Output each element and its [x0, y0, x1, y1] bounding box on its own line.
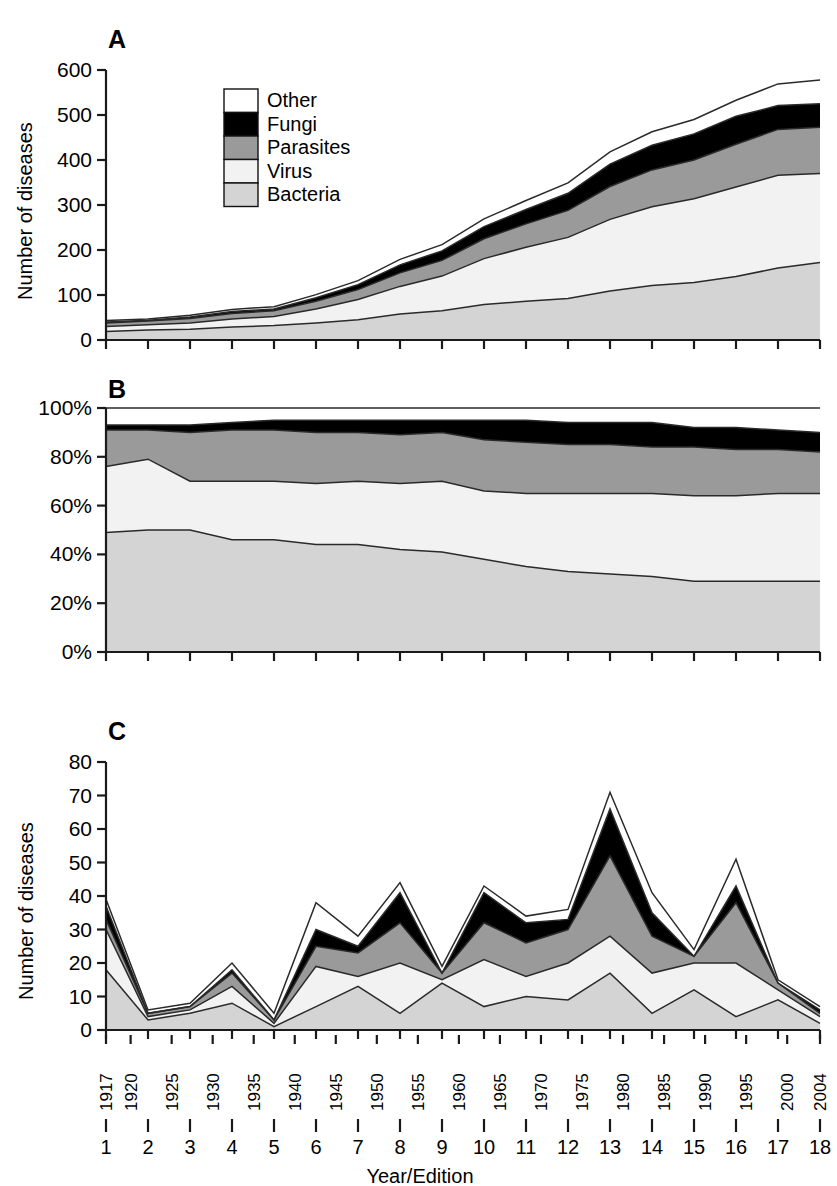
year-label: 2004: [811, 1073, 830, 1111]
edition-label: 12: [557, 1136, 579, 1158]
legend-label-other: Other: [267, 89, 317, 111]
y-tick-label: 300: [57, 193, 92, 216]
y-tick-label: 10: [69, 985, 92, 1008]
year-label: 1960: [450, 1073, 469, 1111]
legend-swatch-other: [224, 89, 258, 113]
year-label: 1980: [614, 1073, 633, 1111]
edition-label: 9: [436, 1136, 447, 1158]
panel-b-letter: B: [108, 375, 126, 403]
edition-label: 15: [683, 1136, 705, 1158]
edition-label: 13: [599, 1136, 621, 1158]
panel-c-areas: [106, 792, 820, 1030]
edition-label: 18: [809, 1136, 831, 1158]
x-axis-edition-labels: 123456789101112131415161718: [100, 1119, 831, 1158]
y-tick-label: 40: [69, 884, 92, 907]
y-tick-label: 100: [57, 283, 92, 306]
panel-a-ylabel: Number of diseases: [14, 122, 36, 300]
x-axis-year-labels: 1917192019251930193519401945195019551960…: [97, 1035, 830, 1111]
year-label: 1945: [327, 1073, 346, 1111]
year-label: 1965: [491, 1073, 510, 1111]
panel-a-letter: A: [108, 25, 126, 53]
legend-label-virus: Virus: [267, 160, 312, 182]
panel-c-ylabel: Number of diseases: [15, 822, 37, 1000]
edition-label: 14: [641, 1136, 663, 1158]
y-tick-label: 60%: [50, 494, 92, 517]
y-tick-label: 60: [69, 817, 92, 840]
panel-b-areas: [106, 408, 820, 652]
legend-label-parasites: Parasites: [267, 136, 350, 158]
y-tick-label: 40%: [50, 542, 92, 565]
year-label: 1925: [163, 1073, 182, 1111]
year-label: 1940: [286, 1073, 305, 1111]
panel-a: A Number of diseases 0100200300400500600…: [0, 0, 837, 360]
panel-a-svg: A Number of diseases 0100200300400500600…: [0, 0, 837, 360]
legend-swatch-virus: [224, 160, 258, 184]
panel-c-ytick-labels: 01020304050607080: [69, 750, 92, 1041]
y-tick-label: 50: [69, 851, 92, 874]
y-tick-label: 80: [69, 750, 92, 773]
panel-b-svg: B 0%20%40%60%80%100%: [0, 360, 837, 700]
year-label: 1990: [696, 1073, 715, 1111]
edition-label: 1: [100, 1136, 111, 1158]
panel-c-letter: C: [108, 717, 126, 745]
edition-label: 10: [473, 1136, 495, 1158]
year-label: 2000: [778, 1073, 797, 1111]
panel-c: C Number of diseases 01020304050607080: [0, 700, 837, 1040]
edition-label: 6: [310, 1136, 321, 1158]
year-label: 1955: [409, 1073, 428, 1111]
x-axis-svg: 1917192019251930193519401945195019551960…: [0, 1035, 837, 1186]
y-tick-label: 20: [69, 951, 92, 974]
edition-label: 16: [725, 1136, 747, 1158]
edition-label: 4: [226, 1136, 237, 1158]
year-label: 1985: [655, 1073, 674, 1111]
year-label: 1920: [122, 1073, 141, 1111]
y-tick-label: 70: [69, 784, 92, 807]
y-tick-label: 400: [57, 148, 92, 171]
edition-label: 11: [516, 1136, 537, 1158]
y-tick-label: 30: [69, 918, 92, 941]
panel-c-svg: C Number of diseases 01020304050607080: [0, 700, 837, 1040]
legend-swatch-parasites: [224, 136, 258, 160]
year-label: 1950: [368, 1073, 387, 1111]
y-tick-label: 200: [57, 238, 92, 261]
edition-label: 2: [142, 1136, 153, 1158]
panel-a-areas: [106, 80, 820, 340]
legend: OtherFungiParasitesVirusBacteria: [224, 89, 350, 207]
legend-swatch-bacteria: [224, 183, 258, 207]
panel-a-ytick-labels: 0100200300400500600: [57, 58, 92, 351]
year-label: 1930: [204, 1073, 223, 1111]
panel-b-ytick-labels: 0%20%40%60%80%100%: [38, 396, 92, 663]
year-label: 1917: [97, 1073, 116, 1111]
y-tick-label: 600: [57, 58, 92, 81]
legend-label-fungi: Fungi: [267, 113, 317, 135]
year-label: 1935: [245, 1073, 264, 1111]
x-axis-title: Year/Edition: [366, 1165, 473, 1186]
edition-label: 3: [184, 1136, 195, 1158]
y-tick-label: 500: [57, 103, 92, 126]
year-label: 1975: [573, 1073, 592, 1111]
y-tick-label: 80%: [50, 445, 92, 468]
panel-b: B 0%20%40%60%80%100%: [0, 360, 837, 700]
y-tick-label: 100%: [38, 396, 92, 419]
legend-label-bacteria: Bacteria: [267, 183, 341, 205]
edition-label: 5: [268, 1136, 279, 1158]
year-label: 1970: [532, 1073, 551, 1111]
y-tick-label: 0%: [62, 640, 92, 663]
year-label: 1995: [737, 1073, 756, 1111]
legend-swatch-fungi: [224, 113, 258, 137]
edition-label: 8: [394, 1136, 405, 1158]
edition-label: 7: [352, 1136, 363, 1158]
x-axis-block: 1917192019251930193519401945195019551960…: [0, 1035, 837, 1186]
edition-label: 17: [767, 1136, 789, 1158]
y-tick-label: 20%: [50, 591, 92, 614]
y-tick-label: 0: [80, 328, 92, 351]
